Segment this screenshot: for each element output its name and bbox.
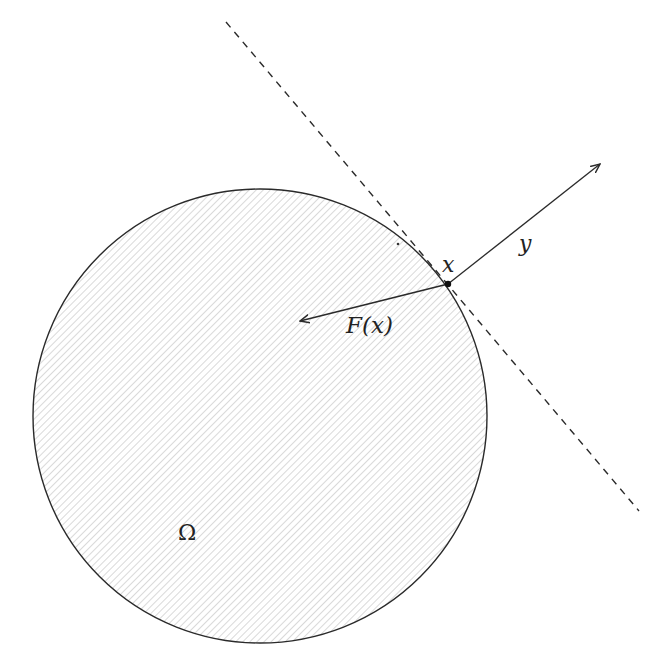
vector-y xyxy=(448,164,600,284)
label-fx: F(x) xyxy=(346,314,393,337)
label-x: x xyxy=(442,254,454,276)
region-fill xyxy=(33,189,487,643)
label-y: y xyxy=(519,233,531,255)
region-omega xyxy=(33,189,487,643)
point-x-marker xyxy=(445,281,451,287)
diagram-canvas xyxy=(0,0,660,665)
label-omega: Ω xyxy=(178,522,196,544)
small-dot xyxy=(397,243,400,246)
